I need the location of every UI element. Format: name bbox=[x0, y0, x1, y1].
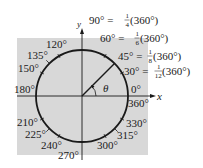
theta-label: θ bbox=[103, 82, 109, 94]
unit-circle-diagram: x y θ 0° 360° 120° 135° 150° 18 bbox=[0, 0, 203, 168]
svg-text:1: 1 bbox=[136, 30, 140, 38]
svg-text:(360°): (360°) bbox=[140, 32, 169, 45]
x-axis-arrow-icon bbox=[150, 94, 156, 98]
x-axis-label: x bbox=[156, 90, 162, 102]
svg-text:(360°): (360°) bbox=[130, 14, 159, 27]
y-axis-label: y bbox=[76, 19, 81, 29]
svg-text:8: 8 bbox=[149, 57, 153, 65]
label-360deg: 360° bbox=[128, 97, 149, 109]
svg-text:(360°): (360°) bbox=[153, 50, 182, 63]
label-135deg: 135° bbox=[27, 49, 48, 61]
equation-90: 90° = 1 4 (360°) bbox=[89, 12, 159, 29]
svg-text:6: 6 bbox=[136, 39, 140, 47]
label-270deg: 270° bbox=[58, 149, 79, 161]
svg-text:1: 1 bbox=[126, 12, 130, 20]
svg-text:4: 4 bbox=[126, 21, 130, 29]
label-180deg: 180° bbox=[14, 83, 35, 95]
svg-text:30° =: 30° = bbox=[124, 65, 148, 77]
svg-text:1: 1 bbox=[149, 48, 153, 56]
svg-text:90° =: 90° = bbox=[89, 14, 113, 26]
svg-text:(360°): (360°) bbox=[162, 65, 191, 78]
svg-text:45° =: 45° = bbox=[118, 50, 142, 62]
label-150deg: 150° bbox=[18, 62, 39, 74]
label-120deg: 120° bbox=[46, 38, 67, 50]
label-315deg: 315° bbox=[117, 129, 138, 141]
svg-text:1: 1 bbox=[157, 63, 161, 71]
label-330deg: 330° bbox=[126, 117, 147, 129]
label-0deg: 0° bbox=[131, 83, 141, 95]
label-210deg: 210° bbox=[17, 116, 38, 128]
label-300deg: 300° bbox=[97, 139, 118, 151]
svg-text:60° =: 60° = bbox=[100, 32, 124, 44]
